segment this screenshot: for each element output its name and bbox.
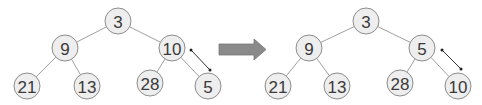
tree-node: 9	[296, 35, 322, 61]
tree-node: 10	[445, 73, 471, 99]
tree-node: 10	[159, 35, 185, 61]
tree-node: 3	[105, 8, 131, 34]
node-label: 5	[203, 78, 212, 97]
swap-arrow-icon	[442, 50, 461, 69]
tree-node: 13	[324, 73, 350, 99]
heap-after: 39521132810	[265, 8, 471, 99]
tree-edge	[72, 59, 81, 74]
heap-diagram: 39102113285 39521132810	[0, 0, 482, 105]
node-label: 13	[78, 78, 97, 97]
tree-edge	[157, 59, 165, 72]
node-label: 28	[391, 75, 410, 94]
tree-node: 28	[387, 70, 413, 96]
node-label: 21	[269, 78, 288, 97]
transition-arrow-icon	[219, 39, 266, 60]
node-label: 10	[449, 78, 468, 97]
tree-node: 21	[265, 73, 291, 99]
tree-node: 28	[137, 70, 163, 96]
tree-node: 13	[74, 73, 100, 99]
tree-edge	[317, 58, 330, 75]
tree-edge	[130, 27, 161, 42]
tree-edge	[431, 57, 449, 76]
node-label: 28	[141, 75, 160, 94]
tree-node: 5	[409, 35, 435, 61]
tree-edge	[321, 27, 355, 43]
tree-edge	[378, 27, 411, 43]
node-label: 5	[417, 40, 426, 59]
node-label: 13	[328, 78, 347, 97]
node-label: 9	[60, 40, 69, 59]
node-label: 9	[304, 40, 313, 59]
node-label: 3	[113, 13, 122, 32]
tree-node: 5	[195, 73, 221, 99]
tree-node: 21	[14, 73, 40, 99]
tree-node: 9	[52, 35, 78, 61]
tree-edge	[36, 57, 56, 77]
swap-arrow-icon	[191, 50, 210, 70]
tree-edge	[181, 57, 199, 76]
node-label: 21	[18, 78, 37, 97]
tree-edge	[77, 27, 107, 42]
heap-before: 39102113285	[14, 8, 221, 99]
node-label: 3	[361, 13, 370, 32]
tree-node: 3	[353, 8, 379, 34]
node-label: 10	[163, 40, 182, 59]
tree-edge	[407, 59, 415, 72]
tree-edge	[286, 58, 301, 76]
